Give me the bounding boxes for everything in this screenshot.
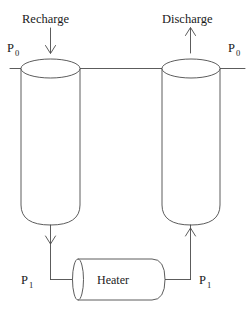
p1-right-symbol: P <box>199 273 206 287</box>
pressure-label-p0-right: P 0 <box>228 41 240 58</box>
p1-left-subscript: 1 <box>29 280 33 290</box>
right-vessel-inlet-pipe <box>186 225 196 280</box>
diagram-canvas: Recharge Discharge P 0 P 0 Heater P 1 P … <box>0 0 249 315</box>
pressure-label-p0-left: P 0 <box>7 41 19 58</box>
heater-label: Heater <box>97 273 129 287</box>
recharge-label: Recharge <box>22 12 69 26</box>
p0-right-subscript: 0 <box>236 48 240 58</box>
recharge-inflow-arrow <box>46 28 56 54</box>
right-vessel-top-rim <box>162 59 220 78</box>
pressure-label-p1-left: P 1 <box>21 273 33 290</box>
p1-right-subscript: 1 <box>207 280 211 290</box>
p1-left-symbol: P <box>21 273 28 287</box>
left-vessel-body <box>21 69 80 226</box>
discharge-outflow-arrow <box>186 28 196 54</box>
left-vessel-top-rim <box>21 59 80 78</box>
left-vessel-outlet-pipe <box>46 225 56 280</box>
p0-left-subscript: 0 <box>15 48 19 58</box>
schematic-drawing: Recharge Discharge P 0 P 0 Heater P 1 P … <box>0 0 249 315</box>
discharge-label: Discharge <box>162 12 213 26</box>
heater-left-cap <box>73 259 84 300</box>
pressure-label-p1-right: P 1 <box>199 273 211 290</box>
right-vessel-body <box>162 69 220 226</box>
p0-left-symbol: P <box>7 41 14 55</box>
p0-right-symbol: P <box>228 41 235 55</box>
